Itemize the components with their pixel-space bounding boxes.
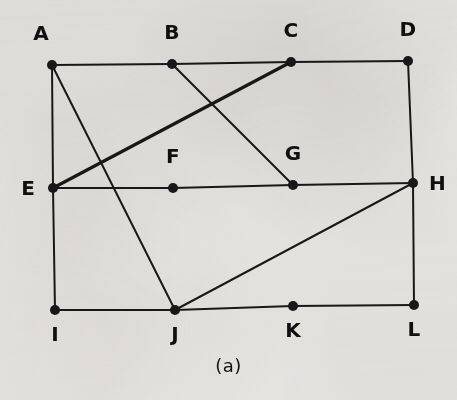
- graph-edge-k-l: [293, 305, 414, 306]
- graph-node-l[interactable]: [409, 300, 419, 310]
- graph-canvas: [0, 0, 457, 400]
- graph-node-d[interactable]: [403, 56, 413, 66]
- node-label-a: A: [33, 23, 49, 43]
- graph-node-e[interactable]: [48, 183, 58, 193]
- node-label-l: L: [408, 319, 421, 339]
- graph-node-b[interactable]: [167, 59, 177, 69]
- figure-caption: (a): [0, 355, 457, 376]
- node-label-e: E: [21, 178, 35, 198]
- graph-node-f[interactable]: [168, 183, 178, 193]
- graph-edge-g-h: [293, 183, 413, 185]
- node-label-j: J: [171, 324, 179, 344]
- node-label-b: B: [164, 22, 179, 42]
- graph-node-k[interactable]: [288, 301, 298, 311]
- graph-edge-j-k: [175, 306, 293, 310]
- graph-node-h[interactable]: [408, 178, 418, 188]
- node-label-g: G: [285, 143, 302, 163]
- graph-edge-b-g: [172, 64, 293, 185]
- graph-edge-f-g: [173, 185, 293, 188]
- graph-edge-a-e: [52, 65, 53, 188]
- graph-edge-e-i: [53, 188, 55, 310]
- node-label-d: D: [400, 19, 417, 39]
- graph-edge-j-h: [175, 183, 413, 310]
- graph-node-g[interactable]: [288, 180, 298, 190]
- node-label-h: H: [429, 173, 446, 193]
- node-label-i: I: [51, 324, 59, 344]
- graph-edge-b-c: [172, 62, 291, 64]
- edge-layer: [52, 61, 414, 310]
- graph-node-i[interactable]: [50, 305, 60, 315]
- graph-node-a[interactable]: [47, 60, 57, 70]
- node-label-k: K: [285, 320, 301, 340]
- node-label-c: C: [284, 20, 299, 40]
- graph-node-c[interactable]: [286, 57, 296, 67]
- graph-edge-d-h: [408, 61, 413, 183]
- figure-container: ABCDEFGHIJKL (a): [0, 0, 457, 400]
- node-label-f: F: [166, 146, 180, 166]
- graph-edge-e-c: [53, 62, 291, 188]
- graph-node-j[interactable]: [170, 305, 180, 315]
- graph-edge-c-d: [291, 61, 408, 62]
- graph-edge-h-l: [413, 183, 414, 305]
- graph-edge-a-b: [52, 64, 172, 65]
